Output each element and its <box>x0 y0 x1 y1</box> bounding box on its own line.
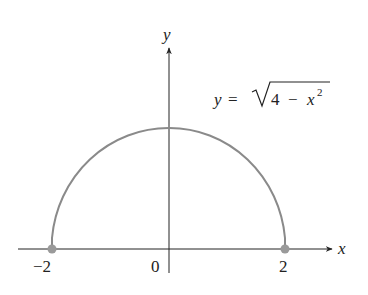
tick-label-neg2: −2 <box>33 257 51 276</box>
eq-exponent: 2 <box>317 86 323 98</box>
semicircle-graph: y x −2 0 2 y = 4 − x 2 <box>0 0 368 295</box>
tick-label-0: 0 <box>151 257 160 276</box>
eq-lhs: y <box>212 90 222 109</box>
x-axis-label: x <box>337 239 346 258</box>
eq-four: 4 <box>271 90 280 109</box>
endpoint-dot-left <box>48 245 57 254</box>
eq-x: x <box>306 90 315 109</box>
eq-minus: − <box>288 90 298 109</box>
plot-canvas: y x −2 0 2 y = 4 − x 2 <box>0 0 368 295</box>
function-equation-label: y = 4 − x 2 <box>212 82 330 109</box>
y-axis-label: y <box>161 25 171 44</box>
endpoint-dot-right <box>281 245 290 254</box>
tick-label-2: 2 <box>279 257 288 276</box>
eq-equals: = <box>228 90 238 109</box>
